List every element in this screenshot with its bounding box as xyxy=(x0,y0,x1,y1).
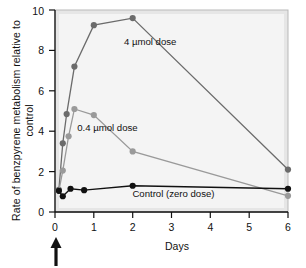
y-tick-label-0: 0 xyxy=(38,206,44,218)
data-point xyxy=(91,22,97,28)
annotation-label-1: 4 µmol dose xyxy=(124,36,176,47)
data-point xyxy=(285,193,291,199)
data-point xyxy=(60,140,66,146)
data-point xyxy=(56,188,62,194)
data-point xyxy=(60,193,66,199)
annotation-label-2: 0.4 µmol dose xyxy=(77,122,137,133)
y-axis-ticks xyxy=(49,10,55,212)
data-point xyxy=(67,186,73,192)
x-axis-tick-labels: 0 1 2 3 4 5 6 xyxy=(52,221,291,233)
y-tick-label-2: 2 xyxy=(38,166,44,178)
y-axis-tick-labels: 0 2 4 6 8 10 xyxy=(32,5,44,219)
x-axis-ticks xyxy=(55,212,288,218)
x-tick-label-6: 6 xyxy=(285,221,291,233)
data-point xyxy=(60,167,66,173)
data-point xyxy=(64,111,70,117)
x-tick-label-5: 5 xyxy=(246,221,252,233)
data-point xyxy=(285,186,291,192)
x-axis-label: Days xyxy=(165,240,189,252)
x-tick-label-1: 1 xyxy=(91,221,97,233)
x-tick-label-3: 3 xyxy=(169,221,175,233)
data-point xyxy=(65,133,71,139)
data-point xyxy=(130,15,136,21)
data-point xyxy=(285,166,291,172)
data-point xyxy=(81,187,87,193)
y-tick-label-8: 8 xyxy=(38,44,44,56)
annotation-label-3: Control (zero dose) xyxy=(132,188,214,199)
chart-plot-svg: 0 2 4 6 8 10 0 1 2 3 4 5 6 xyxy=(0,0,306,268)
x-axis-label-wrap: Days xyxy=(0,240,306,252)
data-point xyxy=(71,106,77,112)
x-tick-label-4: 4 xyxy=(207,221,213,233)
y-tick-label-10: 10 xyxy=(32,5,44,17)
data-point xyxy=(91,112,97,118)
chart-figure: Rate of benzpyrene metabolism relative t… xyxy=(0,0,306,268)
y-tick-label-4: 4 xyxy=(38,125,44,137)
data-point xyxy=(130,148,136,154)
x-tick-label-0: 0 xyxy=(52,221,58,233)
data-point xyxy=(71,63,77,69)
x-tick-label-2: 2 xyxy=(130,221,136,233)
y-tick-label-6: 6 xyxy=(38,85,44,97)
